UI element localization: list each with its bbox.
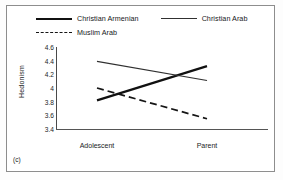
y-axis-tick-4.2: 4.2 — [45, 71, 54, 78]
y-axis-tick-4: 4 — [50, 85, 54, 92]
figure-panel-c: Christian Armenian Christian Arab Muslim… — [0, 0, 283, 180]
y-axis-tick-3.6: 3.6 — [45, 112, 54, 119]
plot-area: Hedonism 3.43.63.844.24.44.6 AdolescentP… — [0, 0, 283, 180]
series-lines — [56, 47, 241, 129]
x-axis-tick-adolescent: Adolescent — [80, 142, 115, 149]
x-axis-line — [56, 129, 268, 130]
y-axis-tick-3.8: 3.8 — [45, 98, 54, 105]
y-axis-tick-labels: 3.43.63.844.24.44.6 — [30, 47, 54, 129]
y-axis-tick-4.4: 4.4 — [45, 57, 54, 64]
y-axis-tick-4.6: 4.6 — [45, 44, 54, 51]
y-axis-tick-3.4: 3.4 — [45, 126, 54, 133]
x-axis-tick-labels: AdolescentParent — [56, 142, 241, 154]
series-line-muslim-arab — [97, 88, 207, 119]
panel-label: (c) — [13, 156, 21, 163]
x-axis-tick-parent: Parent — [197, 142, 218, 149]
y-axis-title: Hedonism — [18, 52, 25, 112]
